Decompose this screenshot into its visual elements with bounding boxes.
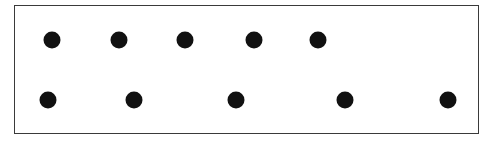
bottom-row-dot-icon (40, 92, 57, 109)
bottom-row-dot-icon (440, 92, 457, 109)
bottom-row-dot-icon (228, 92, 245, 109)
top-row-dot-icon (177, 32, 194, 49)
bottom-row-dot-icon (337, 92, 354, 109)
top-row-dot-icon (111, 32, 128, 49)
top-row-dot-icon (310, 32, 327, 49)
bottom-row-dot-icon (126, 92, 143, 109)
diagram-frame (14, 5, 479, 134)
top-row-dot-icon (246, 32, 263, 49)
top-row-dot-icon (44, 32, 61, 49)
